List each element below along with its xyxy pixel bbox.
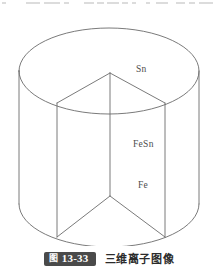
page-text-bleed-run xyxy=(132,2,136,4)
wedge-top-left-edge xyxy=(57,73,110,103)
layer-label-sn: Sn xyxy=(136,64,147,74)
figure-caption-text: 三维离子图像 xyxy=(105,254,175,265)
page-text-bleed-run xyxy=(156,2,168,4)
page-text-bleed-run xyxy=(122,2,128,4)
wedge-top-right-edge xyxy=(110,73,165,103)
cylinder-bottom-rim xyxy=(19,204,199,246)
page-text-bleed-run xyxy=(64,2,69,4)
figure-badge-number: 13-33 xyxy=(62,253,89,264)
page-text-bleed-run xyxy=(2,2,6,4)
figure-container: Sn FeSn Fe 图 13-33 三维离子图像 xyxy=(0,0,218,280)
wedge-bottom-right-edge xyxy=(110,196,165,237)
page-text-bleed-run xyxy=(146,2,150,4)
page-text-bleed-run xyxy=(44,2,60,4)
figure-badge-label: 图 xyxy=(49,254,58,263)
figure-number-badge: 图 13-33 xyxy=(44,252,96,266)
page-text-bleed-run xyxy=(107,2,119,4)
page-text-bleed-run xyxy=(176,2,185,4)
cutaway-cylinder-svg xyxy=(0,10,218,246)
layer-label-fesn: FeSn xyxy=(133,139,154,149)
three-dimensional-ion-image-diagram: Sn FeSn Fe xyxy=(0,10,218,246)
page-text-bleed-run xyxy=(97,2,104,4)
layer-label-fe: Fe xyxy=(138,180,148,190)
page-text-bleed-run xyxy=(189,2,195,4)
cylinder-top-rim xyxy=(19,28,199,114)
figure-caption: 图 13-33 三维离子图像 xyxy=(0,248,218,270)
page-text-bleed-run xyxy=(199,2,213,4)
page-text-bleed xyxy=(0,0,218,9)
wedge-bottom-left-edge xyxy=(57,196,110,237)
page-text-bleed-run xyxy=(84,2,94,4)
page-text-bleed-run xyxy=(26,2,40,4)
